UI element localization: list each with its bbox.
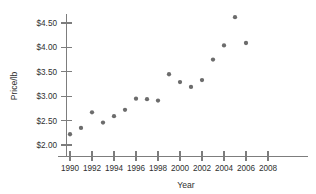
data-point [145, 97, 149, 101]
data-point [101, 120, 105, 124]
x-axis-title: Year [177, 180, 195, 190]
y-tick-label: $3.00 [37, 92, 58, 101]
x-tick-label: 1990 [61, 164, 80, 173]
plot-area: $2.00$2.50$3.00$3.50$4.00$4.50 199019921… [0, 0, 316, 194]
y-tick-label: $4.00 [37, 43, 58, 52]
x-tick-label: 1992 [83, 164, 102, 173]
x-axis: 1990199219941996199820002002200420062008 [58, 151, 308, 173]
data-point-group [68, 15, 248, 136]
data-point [211, 57, 215, 61]
x-tick-label: 2002 [193, 164, 212, 173]
data-point [79, 126, 83, 130]
data-point [178, 80, 182, 84]
data-point [200, 78, 204, 82]
y-tick-label: $4.50 [37, 19, 58, 28]
data-point [167, 72, 171, 76]
data-point [90, 110, 94, 114]
x-tick-label: 2006 [237, 164, 256, 173]
data-point [222, 43, 226, 47]
x-tick-label: 1998 [149, 164, 168, 173]
data-point [156, 98, 160, 102]
x-tick-label: 2000 [171, 164, 190, 173]
data-point [134, 96, 138, 100]
x-tick-group: 1990199219941996199820002002200420062008 [61, 151, 278, 173]
x-tick-label: 1994 [105, 164, 124, 173]
x-tick-label: 2004 [215, 164, 234, 173]
y-tick-label: $2.00 [37, 141, 58, 150]
x-tick-label: 2008 [259, 164, 278, 173]
data-point [244, 41, 248, 45]
y-tick-label: $3.50 [37, 68, 58, 77]
y-axis-title: Price/lb [9, 71, 19, 100]
price-per-pound-scatter-chart: $2.00$2.50$3.00$3.50$4.00$4.50 199019921… [0, 0, 316, 194]
data-point [233, 15, 237, 19]
data-point [112, 114, 116, 118]
data-point [189, 85, 193, 89]
data-point [68, 132, 72, 136]
data-point [123, 108, 127, 112]
y-tick-label: $2.50 [37, 117, 58, 126]
x-tick-label: 1996 [127, 164, 146, 173]
y-axis: $2.00$2.50$3.00$3.50$4.00$4.50 [37, 14, 73, 157]
